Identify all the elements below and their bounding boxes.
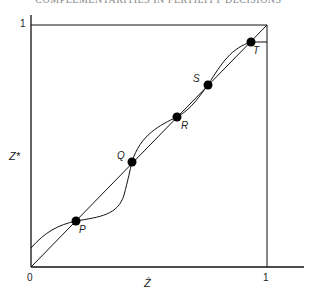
y-axis-label: Z* [9, 150, 20, 162]
x-tick-0: 0 [27, 272, 33, 283]
equilibrium-point-q [128, 158, 137, 167]
point-label-p: P [79, 224, 86, 235]
point-label-s: S [193, 73, 200, 84]
equilibrium-diagram [0, 0, 317, 298]
point-label-r: R [181, 120, 188, 131]
point-label-t: T [253, 45, 259, 56]
point-label-q: Q [117, 150, 125, 161]
diagonal-line [31, 25, 267, 267]
response-curve [31, 42, 267, 248]
x-axis-label: Ẑ [144, 277, 151, 289]
y-tick-1: 1 [20, 18, 26, 29]
equilibrium-point-s [204, 81, 213, 90]
x-tick-1: 1 [263, 272, 269, 283]
